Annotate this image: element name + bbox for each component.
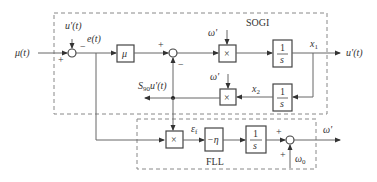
integrator-2-num: 1: [280, 86, 285, 97]
x2-label: x2: [251, 83, 260, 96]
input-label: μ(t): [14, 47, 30, 59]
summing-junction-1: [68, 49, 76, 57]
integrator-3-den: s: [253, 140, 257, 151]
sum1-minus: −: [80, 41, 86, 52]
feedback-label: u'(t): [65, 20, 82, 32]
integrator-3-num: 1: [253, 128, 258, 139]
summing-junction-3: [286, 136, 294, 144]
output-label: u'(t): [346, 47, 363, 59]
omega-in2-label: ω': [210, 71, 220, 82]
summing-junction-2: [169, 49, 177, 57]
sum1-plus: +: [58, 54, 64, 65]
sogi-label: SOGI: [246, 17, 269, 28]
error-label: e(t): [87, 33, 102, 45]
x1-label: x1: [309, 38, 318, 51]
sogi-fll-diagram: SOGI FLL μ(t) + u'(t) − e(t) μ + − × ω' …: [0, 0, 377, 182]
quad-label: S90u'(t): [138, 80, 167, 93]
ef-label: εf: [191, 123, 198, 136]
integrator-2-den: s: [280, 98, 284, 109]
multiplier-1-text: ×: [224, 48, 230, 59]
integrator-1-num: 1: [280, 42, 285, 53]
integrator-1-den: s: [280, 54, 284, 65]
sum3-plus-bottom: +: [280, 149, 286, 160]
sum2-minus: −: [178, 59, 184, 70]
omega-in1-label: ω': [208, 27, 218, 38]
sum2-plus: +: [158, 39, 164, 50]
fll-label: FLL: [206, 156, 224, 167]
error-to-fll-wire: [96, 53, 164, 140]
gain-mu-text: μ: [121, 48, 127, 59]
omega-out-label: ω': [323, 124, 333, 135]
fll-multiplier-text: ×: [171, 134, 177, 145]
omega0-label: ω0: [295, 153, 306, 166]
sum3-plus-left: +: [276, 126, 282, 137]
x1-feedback-wire: [293, 53, 313, 97]
neg-eta-text: −η: [207, 134, 219, 145]
multiplier-2-text: ×: [224, 92, 230, 103]
